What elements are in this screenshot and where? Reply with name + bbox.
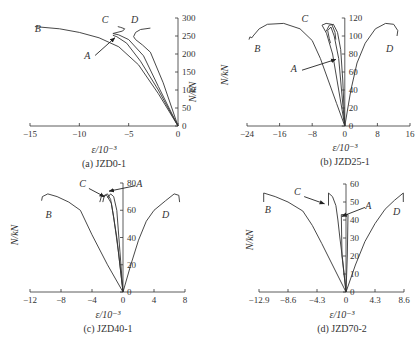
x-tick-label: 16 bbox=[406, 129, 416, 139]
panel-a-xlabel: ε/10⁻³ bbox=[92, 144, 118, 155]
panel-a: −15−10−50050100150200250300BCDA N/kN ε/1… bbox=[23, 13, 198, 170]
x-tick-label: −5 bbox=[124, 129, 134, 139]
y-tick-label: 0 bbox=[182, 121, 187, 131]
panel-c-caption: (c) JZD40-1 bbox=[83, 323, 132, 335]
x-tick-label: −24 bbox=[240, 129, 255, 139]
panel-b-ylabel: N/kN bbox=[219, 63, 230, 86]
panel-b-caption: (b) JZD25-1 bbox=[320, 156, 370, 168]
curve-label-a: A bbox=[83, 50, 91, 61]
curve-label-c: C bbox=[302, 13, 309, 24]
panel-d-ylabel: N/kN bbox=[244, 228, 255, 251]
y-tick-label: 100 bbox=[349, 31, 363, 41]
panel-c: −12−8−4048020406080BCAD N/kN ε/10⁻³ (c) … bbox=[9, 178, 188, 335]
x-tick-label: 0 bbox=[343, 129, 348, 139]
y-tick-label: 40 bbox=[127, 233, 137, 243]
y-tick-label: 250 bbox=[182, 31, 196, 41]
curve-c bbox=[329, 193, 347, 292]
x-tick-label: −16 bbox=[273, 129, 288, 139]
panel-a-plot: −15−10−50050100150200250300BCDA bbox=[23, 13, 196, 139]
x-tick-label: −4.3 bbox=[309, 295, 326, 305]
y-tick-label: 60 bbox=[127, 205, 137, 215]
y-tick-label: 0 bbox=[349, 121, 354, 131]
curve-label-a: A bbox=[364, 200, 372, 211]
panel-c-xlabel: ε/10⁻³ bbox=[96, 309, 122, 320]
x-tick-label: −8.6 bbox=[280, 295, 297, 305]
x-tick-label: −10 bbox=[72, 129, 87, 139]
y-tick-label: 40 bbox=[350, 215, 360, 225]
panel-b-plot: −24−16−80816020406080100120BCDA bbox=[240, 13, 415, 139]
curve-label-d: D bbox=[161, 209, 170, 220]
curve-label-c: C bbox=[102, 14, 109, 25]
x-tick-label: −12.9 bbox=[249, 295, 270, 305]
curve-label-a: A bbox=[290, 63, 298, 74]
x-tick-label: 4.3 bbox=[369, 295, 381, 305]
y-tick-label: 50 bbox=[182, 103, 192, 113]
panel-d-caption: (d) JZD70-2 bbox=[317, 323, 367, 335]
x-tick-label: −4 bbox=[87, 295, 97, 305]
panel-a-caption: (a) JZD0-1 bbox=[82, 158, 126, 170]
curve-d bbox=[134, 28, 178, 126]
curve-c bbox=[103, 194, 123, 292]
y-tick-label: 200 bbox=[182, 49, 196, 59]
x-tick-label: −8 bbox=[307, 129, 317, 139]
panel-a-ylabel: N/kN bbox=[187, 80, 198, 103]
annotation-arrow-a bbox=[109, 186, 135, 191]
panel-d-plot: −12.9−8.6−4.304.38.60102030405060BCAD bbox=[249, 179, 411, 305]
panel-c-ylabel: N/kN bbox=[9, 223, 20, 246]
curve-label-b: B bbox=[254, 43, 260, 54]
y-tick-label: 80 bbox=[349, 49, 359, 59]
x-tick-label: 0 bbox=[176, 129, 181, 139]
y-tick-label: 60 bbox=[349, 67, 359, 77]
x-tick-label: −15 bbox=[23, 129, 38, 139]
x-tick-label: 8 bbox=[375, 129, 380, 139]
y-tick-label: 300 bbox=[182, 13, 196, 23]
panel-b-xlabel: ε/10⁻³ bbox=[333, 142, 359, 153]
x-tick-label: 8 bbox=[183, 295, 188, 305]
curve-label-b: B bbox=[46, 209, 52, 220]
x-tick-label: 0 bbox=[121, 295, 126, 305]
curve-label-b: B bbox=[35, 23, 41, 34]
curve-a bbox=[113, 35, 178, 126]
figure-canvas: −15−10−50050100150200250300BCDA N/kN ε/1… bbox=[0, 0, 420, 347]
curve-label-d: D bbox=[392, 206, 401, 217]
curve-label-c: C bbox=[294, 186, 301, 197]
curve-b bbox=[249, 23, 345, 126]
y-tick-label: 30 bbox=[350, 233, 360, 243]
curve-label-c: C bbox=[79, 178, 86, 189]
y-tick-label: 0 bbox=[350, 287, 355, 297]
x-tick-label: −12 bbox=[23, 295, 37, 305]
curve-b bbox=[42, 194, 123, 292]
curve-c bbox=[322, 23, 345, 126]
panel-d-xlabel: ε/10⁻³ bbox=[330, 309, 356, 320]
x-tick-label: 8.6 bbox=[398, 295, 410, 305]
x-tick-label: 0 bbox=[344, 295, 349, 305]
x-tick-label: −8 bbox=[56, 295, 66, 305]
curve-b bbox=[35, 27, 178, 126]
curve-a bbox=[341, 215, 348, 292]
y-tick-label: 150 bbox=[182, 67, 196, 77]
y-tick-label: 60 bbox=[350, 179, 360, 189]
curve-label-b: B bbox=[265, 204, 271, 215]
curve-a bbox=[108, 194, 124, 292]
curve-c bbox=[113, 27, 178, 126]
panel-d: −12.9−8.6−4.304.38.60102030405060BCAD N/… bbox=[244, 179, 410, 335]
y-tick-label: 0 bbox=[127, 287, 132, 297]
annotation-arrow-a bbox=[302, 59, 336, 70]
panel-c-plot: −12−8−4048020406080BCAD bbox=[23, 178, 188, 305]
y-tick-label: 20 bbox=[349, 103, 359, 113]
panel-b: −24−16−80816020406080100120BCDA N/kN ε/1… bbox=[219, 13, 415, 168]
y-tick-label: 120 bbox=[349, 13, 363, 23]
curve-label-d: D bbox=[130, 14, 139, 25]
curve-label-a: A bbox=[135, 178, 143, 189]
curve-label-d: D bbox=[385, 43, 394, 54]
curve-b bbox=[264, 193, 346, 292]
x-tick-label: 4 bbox=[152, 295, 157, 305]
annotation-arrow-c bbox=[304, 197, 324, 204]
y-tick-label: 50 bbox=[350, 197, 360, 207]
annotation-arrow-c bbox=[89, 188, 105, 196]
